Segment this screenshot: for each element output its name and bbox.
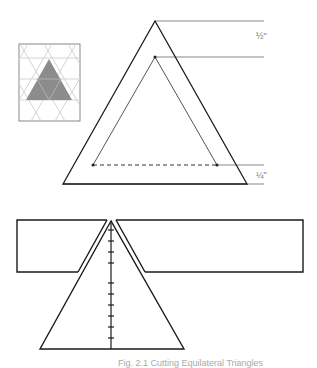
figure-caption: Fig. 2.1 Cutting Equilateral Triangles bbox=[118, 358, 263, 368]
inner-triangle bbox=[92, 56, 219, 167]
half-inch-label: ½" bbox=[256, 31, 267, 41]
outer-triangle bbox=[63, 21, 247, 184]
cutting-diagram bbox=[17, 220, 303, 349]
thumbnail-block bbox=[0, 44, 113, 121]
quarter-inch-label: ¼" bbox=[256, 170, 267, 180]
